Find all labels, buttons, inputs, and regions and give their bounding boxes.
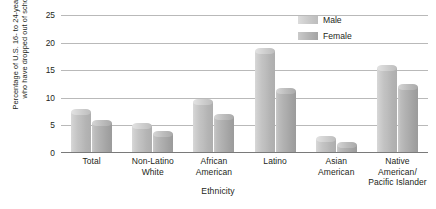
x-axis-category-label: Latino [245,156,306,184]
bar-body [398,87,418,153]
bar-body [71,112,91,153]
bar-body [255,51,275,153]
x-axis-category-label: Asian American [306,156,367,184]
bar-pair [183,15,244,153]
bar-cap [92,120,112,126]
bar-male[interactable] [255,48,275,153]
bar-pair [61,15,122,153]
bar-group [183,15,244,153]
y-axis-title: Percentage of U.S. 16- to 24-year-olds w… [11,0,30,120]
bar-female[interactable] [92,120,112,153]
bar-cap [214,114,234,120]
bar-pair [122,15,183,153]
y-axis-tick-label: 5 [33,120,55,130]
x-axis-category-label: Non-Latino White [122,156,183,184]
bar-pair [245,15,306,153]
x-axis-category-label: African American [183,156,244,184]
bar-male[interactable] [71,109,91,153]
bar-cap [316,136,336,142]
plot-area [61,15,428,153]
bar-cap [153,131,173,137]
bar-cap [276,88,296,94]
legend-label-male: Male [323,15,342,25]
legend-label-female: Female [323,31,352,41]
legend: Male Female [298,14,352,46]
x-axis-category-label: Total [61,156,122,184]
bar-female[interactable] [153,131,173,153]
bar-female[interactable] [214,114,234,153]
bar-body [92,123,112,153]
legend-item-male: Male [298,14,352,26]
bar-body [132,126,152,153]
x-axis-category-labels: TotalNon-Latino WhiteAfrican AmericanLat… [61,156,428,184]
legend-swatch-female-icon [298,32,318,40]
y-axis-tick-label: 20 [33,38,55,48]
bar-group [122,15,183,153]
bar-group [61,15,122,153]
bar-body [276,91,296,153]
y-axis-ticks: 0510152025 [31,15,55,153]
bar-body [193,102,213,153]
bar-pair [367,15,428,153]
bar-cap [193,99,213,105]
bar-cap [398,84,418,90]
bar-male[interactable] [193,99,213,153]
bar-male[interactable] [316,136,336,153]
legend-item-female: Female [298,30,352,42]
bar-female[interactable] [276,88,296,153]
legend-swatch-male-icon [298,16,318,24]
y-axis-tick-label: 15 [33,65,55,75]
bar-chart: Percentage of U.S. 16- to 24-year-olds w… [0,0,436,209]
bar-group [245,15,306,153]
bar-group [367,15,428,153]
bar-male[interactable] [377,65,397,153]
y-axis-tick-label: 0 [33,148,55,158]
y-axis-tick-label: 10 [33,93,55,103]
bar-body [377,68,397,153]
x-axis-category-label: Native American/ Pacific Islander [367,156,428,184]
bar-female[interactable] [398,84,418,153]
x-axis-line [61,152,428,153]
bar-groups [61,15,428,153]
x-axis-title: Ethnicity [0,186,436,196]
bar-cap [132,123,152,129]
y-axis-tick-label: 25 [33,10,55,20]
bar-cap [71,109,91,115]
bar-cap [337,142,357,148]
bar-body [214,117,234,153]
bar-cap [255,48,275,54]
bar-male[interactable] [132,123,152,153]
bar-cap [377,65,397,71]
